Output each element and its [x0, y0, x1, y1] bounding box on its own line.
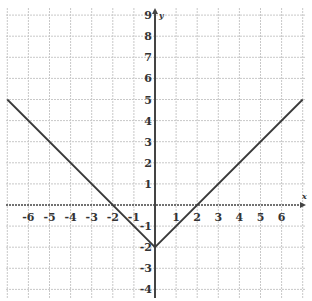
y-tick-label: 8 — [144, 30, 152, 43]
y-tick-label: -3 — [140, 262, 152, 275]
x-tick-label: -2 — [107, 211, 119, 224]
y-tick-label: 7 — [144, 51, 152, 64]
y-tick-label: 4 — [144, 115, 152, 128]
y-tick-label: -1 — [140, 220, 152, 233]
x-tick-label: 1 — [172, 211, 180, 224]
x-axis-label: x — [301, 191, 307, 201]
x-tick-label: -4 — [64, 211, 77, 224]
y-tick-label: 1 — [144, 178, 152, 191]
x-tick-label: 4 — [236, 211, 244, 224]
coordinate-plane: xy-6-5-4-3-2-1123456-4-3-2-1123456789 — [0, 0, 312, 301]
x-tick-label: 6 — [278, 211, 286, 224]
y-axis-arrow-icon — [152, 8, 158, 14]
x-tick-label: -6 — [22, 211, 35, 224]
x-tick-label: 2 — [193, 211, 201, 224]
y-tick-label: 5 — [144, 94, 152, 107]
y-tick-label: 9 — [144, 9, 152, 22]
x-tick-label: 5 — [257, 211, 265, 224]
graph-svg: xy-6-5-4-3-2-1123456-4-3-2-1123456789 — [0, 0, 312, 301]
y-tick-label: 6 — [144, 72, 152, 85]
y-tick-label: 2 — [144, 157, 152, 170]
x-tick-label: -5 — [43, 211, 55, 224]
y-tick-label: 3 — [144, 136, 152, 149]
x-tick-label: 3 — [214, 211, 222, 224]
y-tick-label: -4 — [140, 283, 153, 296]
x-tick-label: -3 — [86, 211, 98, 224]
